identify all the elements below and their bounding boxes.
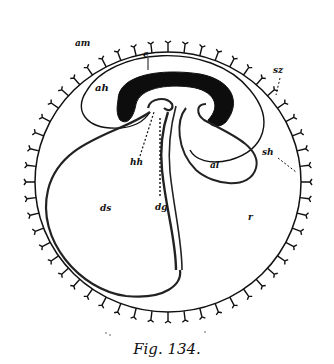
villus — [277, 99, 288, 108]
pointer-sz — [276, 78, 280, 95]
villus — [84, 64, 93, 75]
villus — [244, 289, 253, 300]
villus — [25, 162, 36, 168]
villus — [39, 114, 50, 122]
label-dg: dg — [155, 203, 168, 212]
label-ah: ah — [95, 83, 109, 93]
villus — [70, 74, 80, 84]
villus — [215, 304, 222, 315]
villus — [98, 56, 106, 67]
label-sh: sh — [262, 148, 274, 157]
villus — [98, 297, 106, 308]
villus — [230, 56, 238, 67]
label-e: e — [143, 50, 149, 59]
label-am: am — [75, 39, 90, 48]
villus — [39, 242, 50, 250]
villus — [230, 297, 238, 308]
villus — [215, 49, 222, 60]
villus — [256, 279, 266, 289]
villus — [200, 44, 206, 55]
villus — [24, 179, 35, 185]
villus — [114, 49, 121, 60]
villus — [84, 289, 93, 300]
villus — [300, 162, 311, 168]
label-r: r — [248, 213, 253, 222]
villus — [200, 308, 206, 319]
chorion-membrane — [35, 52, 301, 312]
speck — [105, 332, 107, 334]
speck — [204, 331, 206, 333]
pointer-sh — [278, 158, 296, 172]
villus — [131, 308, 137, 319]
villus — [32, 129, 43, 136]
villus — [48, 99, 59, 108]
villus — [182, 42, 188, 53]
embryo-body — [117, 72, 233, 126]
villus — [27, 213, 38, 219]
villus — [182, 311, 188, 322]
villus — [244, 64, 253, 75]
villus — [286, 114, 297, 122]
villus — [301, 179, 312, 185]
villus — [297, 145, 308, 151]
villus — [268, 268, 278, 278]
villus — [286, 242, 297, 250]
villus — [58, 86, 68, 96]
villus — [165, 41, 171, 52]
yolk-stalk — [161, 112, 176, 270]
villus — [148, 311, 154, 322]
villus — [292, 129, 303, 136]
villus — [297, 213, 308, 219]
villus — [25, 196, 36, 202]
villus — [32, 228, 43, 235]
villus — [70, 279, 80, 289]
villus — [131, 44, 137, 55]
villus — [48, 256, 59, 265]
embryo-diagram — [0, 0, 334, 364]
villus — [277, 256, 288, 265]
figure-caption: Fig. 134. — [0, 340, 334, 358]
villus — [27, 145, 38, 151]
label-ds: ds — [100, 204, 111, 213]
villus — [256, 74, 266, 84]
pointer-hh — [140, 112, 154, 156]
speck — [109, 334, 111, 336]
heart-region — [148, 99, 172, 110]
villus — [58, 268, 68, 278]
villus — [300, 196, 311, 202]
villus — [165, 312, 171, 323]
label-hh: hh — [130, 158, 143, 167]
villus — [114, 304, 121, 315]
label-al: al — [210, 161, 219, 170]
villus — [292, 228, 303, 235]
label-sz: sz — [273, 66, 283, 75]
